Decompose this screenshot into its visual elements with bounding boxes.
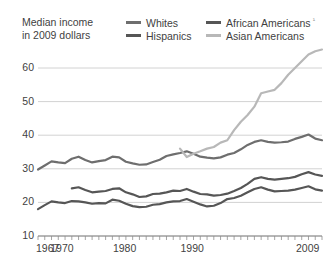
- y-axis-tick-label: 20: [14, 195, 34, 207]
- legend-item-hispanics: Hispanics: [126, 30, 206, 42]
- x-axis-tick-label: 1990: [181, 242, 204, 254]
- x-axis-tick-label: 2009: [296, 242, 319, 254]
- legend-label-asian-americans: Asian Americans: [226, 30, 304, 42]
- legend-swatch-whites: [126, 21, 141, 24]
- gridlines: [38, 68, 322, 236]
- x-axis-tick-label: 1970: [50, 242, 73, 254]
- legend-item-african-americans: African Americans ¹: [206, 17, 332, 29]
- legend-label-african-americans: African Americans: [226, 17, 311, 29]
- y-axis-tick-label: 50: [14, 95, 34, 107]
- legend-item-asian-americans: Asian Americans: [206, 30, 332, 42]
- y-axis-tick-label: 30: [14, 162, 34, 174]
- y-axis-tick-label: 40: [14, 128, 34, 140]
- chart-container: Median income in 2009 dollars Whites Afr…: [0, 0, 332, 269]
- chart-legend: Whites African Americans ¹ Hispanics Asi…: [126, 16, 332, 42]
- y-axis-caption: Median income in 2009 dollars: [22, 16, 93, 42]
- legend-swatch-hispanics: [126, 34, 141, 37]
- legend-row-2: Hispanics Asian Americans: [126, 29, 332, 42]
- y-axis-tick-label: 10: [14, 229, 34, 241]
- legend-swatch-african-americans: [206, 21, 221, 24]
- legend-row-1: Whites African Americans ¹: [126, 16, 332, 29]
- series-line-african-americans: [38, 186, 322, 209]
- x-axis-tick-label: 1980: [113, 242, 136, 254]
- legend-item-whites: Whites: [126, 17, 206, 29]
- chart-header: Median income in 2009 dollars Whites Afr…: [0, 0, 332, 52]
- legend-swatch-asian-americans: [206, 34, 221, 37]
- series-lines: [38, 50, 322, 210]
- series-line-whites: [38, 135, 322, 170]
- y-axis-tick-label: 60: [14, 61, 34, 73]
- x-axis: [38, 236, 322, 240]
- series-line-asian-americans: [180, 50, 322, 158]
- legend-label-hispanics: Hispanics: [146, 30, 192, 42]
- series-line-hispanics: [72, 172, 322, 197]
- legend-label-whites: Whites: [146, 17, 178, 29]
- x-axis-tick-label: 1967: [36, 242, 59, 254]
- footnote-marker: ¹: [313, 16, 315, 23]
